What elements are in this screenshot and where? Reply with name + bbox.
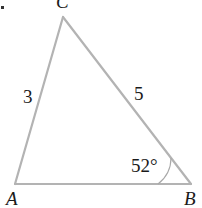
angle-label-b: 52° [131, 155, 158, 176]
angle-arc-b [158, 158, 171, 184]
side-label-ac: 3 [23, 86, 33, 107]
side-label-cb: 5 [134, 83, 144, 104]
bullet-dot [1, 6, 4, 9]
vertex-label-a: A [4, 188, 18, 208]
triangle-diagram: C A B 3 5 52° [0, 0, 202, 208]
side-cb [63, 17, 191, 184]
vertex-label-b: B [184, 188, 196, 208]
vertex-label-c: C [56, 0, 69, 12]
